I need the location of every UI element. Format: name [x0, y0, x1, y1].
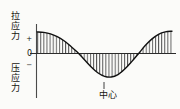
compressive-fill-area	[79, 54, 139, 78]
center-axis-label: 中心	[88, 90, 128, 100]
stress-distribution-figure: 拉 应 力 压 应 力 + 0 − 中心	[0, 0, 180, 109]
tensile-fill-area	[37, 31, 172, 53]
hatched-fill-group	[37, 31, 172, 77]
